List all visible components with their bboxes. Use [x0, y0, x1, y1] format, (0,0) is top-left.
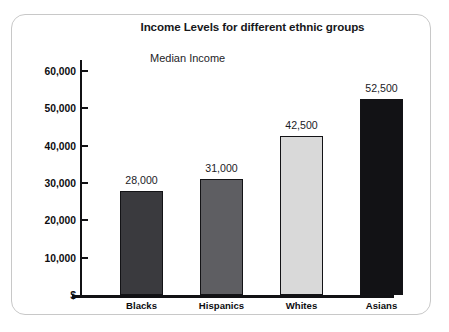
y-tick-mark	[82, 219, 88, 221]
bar-asians[interactable]	[360, 99, 403, 295]
chart-figure: Income Levels for different ethnic group…	[0, 0, 449, 332]
y-tick-mark	[82, 107, 88, 109]
y-tick-label: 50,000	[45, 103, 77, 114]
bar-whites[interactable]	[280, 136, 323, 295]
y-axis-currency-symbol: $	[70, 289, 76, 301]
y-tick-label: 30,000	[45, 178, 77, 189]
bar-hispanics[interactable]	[200, 179, 243, 295]
category-label-asians: Asians	[366, 300, 397, 311]
x-axis-line	[72, 295, 394, 298]
y-tick-mark	[82, 70, 88, 72]
bar-value-label: 42,500	[285, 119, 317, 131]
y-tick-mark	[82, 257, 88, 259]
plot-area: $10,00020,00030,00040,00050,00060,000 28…	[0, 0, 449, 332]
category-label-hispanics: Hispanics	[199, 300, 244, 311]
bar-blacks[interactable]	[120, 191, 163, 295]
bar-value-label: 52,500	[365, 82, 397, 94]
bar-value-label: 28,000	[125, 174, 157, 186]
y-tick-label: 40,000	[45, 140, 77, 151]
category-label-blacks: Blacks	[126, 300, 157, 311]
y-tick-mark	[82, 182, 88, 184]
bar-value-label: 31,000	[205, 162, 237, 174]
y-axis-line	[80, 60, 82, 298]
y-tick-mark	[82, 145, 88, 147]
category-label-whites: Whites	[286, 300, 317, 311]
y-tick-label: 20,000	[45, 215, 77, 226]
y-tick-label: 60,000	[45, 66, 77, 77]
y-tick-label: 10,000	[45, 252, 77, 263]
